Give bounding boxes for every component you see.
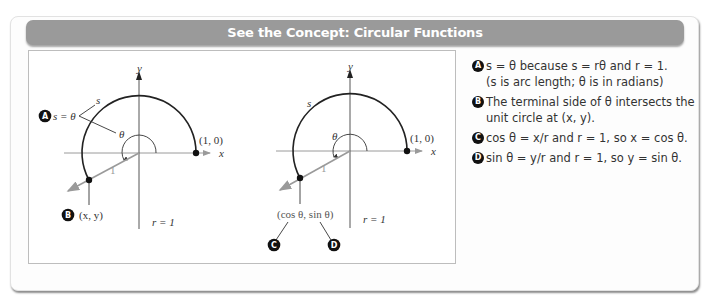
point-1-0 bbox=[193, 150, 199, 156]
x-axis-label: x bbox=[430, 145, 436, 157]
right-unit-circle: y x (1, 0) 1 r = 1 s θ (cos θ, sin θ) C … bbox=[268, 60, 436, 251]
left-unit-circle: y x (1, 0) 1 r = 1 s θ A s = θ B (x, y) bbox=[39, 62, 224, 229]
note-d-line1: sin θ = y/r and r = 1, so y = sin θ. bbox=[486, 150, 697, 166]
badge-c: C bbox=[472, 132, 484, 144]
note-b: B The terminal side of θ intersects the … bbox=[472, 94, 697, 126]
x-axis-label: x bbox=[218, 147, 224, 159]
note-a-line1: s = θ because s = rθ and r = 1. bbox=[486, 58, 697, 74]
point-cos-sin bbox=[297, 175, 303, 181]
radius-label: 1 bbox=[321, 162, 327, 174]
badge-d: D bbox=[472, 152, 484, 164]
terminal-point-label: (cos θ, sin θ) bbox=[277, 208, 334, 221]
r-equals-1-label: r = 1 bbox=[152, 216, 175, 228]
badge-a: A bbox=[472, 60, 484, 72]
note-c-line1: cos θ = x/r and r = 1, so x = cos θ. bbox=[486, 130, 697, 146]
radius-label: 1 bbox=[110, 164, 116, 176]
note-a-line2: (s is arc length; θ is in radians) bbox=[486, 74, 697, 90]
s-equals-theta-label: s = θ bbox=[53, 110, 76, 122]
leader-s bbox=[79, 105, 95, 116]
note-a: A s = θ because s = rθ and r = 1. (s is … bbox=[472, 58, 697, 90]
badge-b: B bbox=[472, 96, 484, 108]
badge-c-letter: C bbox=[271, 241, 277, 250]
point-x-y bbox=[86, 177, 92, 183]
y-axis-label: y bbox=[136, 62, 142, 74]
point-1-0 bbox=[404, 148, 410, 154]
badge-d-letter: D bbox=[331, 241, 338, 250]
point-1-0-label: (1, 0) bbox=[199, 134, 223, 147]
terminal-side bbox=[68, 153, 139, 191]
r-equals-1-label: r = 1 bbox=[363, 213, 386, 225]
leader-d bbox=[320, 222, 331, 240]
terminal-side bbox=[280, 151, 350, 190]
arc-s-label: s bbox=[96, 94, 100, 106]
note-b-line2: unit circle at (x, y). bbox=[486, 110, 697, 126]
note-d: D sin θ = y/r and r = 1, so y = sin θ. bbox=[472, 150, 697, 166]
theta-label: θ bbox=[332, 130, 338, 142]
theta-label: θ bbox=[119, 128, 125, 140]
point-1-0-label: (1, 0) bbox=[410, 132, 434, 145]
badge-b-letter: B bbox=[65, 211, 71, 220]
note-c: C cos θ = x/r and r = 1, so x = cos θ. bbox=[472, 130, 697, 146]
leader-c bbox=[276, 222, 288, 240]
terminal-point-label: (x, y) bbox=[79, 209, 103, 222]
y-axis-label: y bbox=[347, 60, 353, 72]
explanation-list: A s = θ because s = rθ and r = 1. (s is … bbox=[472, 58, 697, 170]
leader-theta bbox=[79, 116, 116, 133]
badge-a-letter: A bbox=[42, 112, 49, 121]
note-b-line1: The terminal side of θ intersects the bbox=[486, 94, 697, 110]
arc-s-label: s bbox=[307, 97, 311, 109]
